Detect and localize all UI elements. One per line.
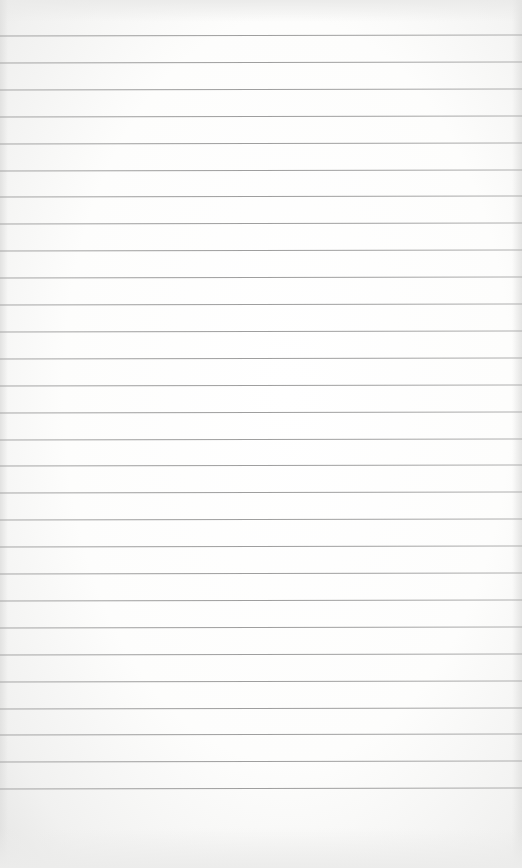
ruled-line	[0, 357, 522, 359]
ruled-line	[0, 707, 522, 709]
ruled-line	[0, 142, 522, 144]
ruled-line	[0, 276, 522, 278]
ruled-line	[0, 169, 522, 171]
ruled-line	[0, 249, 522, 251]
ruled-line	[0, 545, 522, 547]
ruled-line	[0, 491, 522, 493]
ruled-line	[0, 34, 522, 36]
ruled-line	[0, 222, 522, 224]
ruled-line	[0, 518, 522, 520]
ruled-line	[0, 303, 522, 305]
ruled-line	[0, 411, 522, 413]
ruled-line	[0, 680, 522, 682]
ruled-line	[0, 572, 522, 574]
ruled-line	[0, 599, 522, 601]
paper-shadow-top	[0, 0, 522, 22]
ruled-line	[0, 626, 522, 628]
ruled-line	[0, 330, 522, 332]
ruled-line	[0, 438, 522, 440]
ruled-line	[0, 653, 522, 655]
lined-paper-sheet	[0, 0, 522, 868]
ruled-line	[0, 88, 522, 90]
ruled-line	[0, 384, 522, 386]
ruled-line	[0, 115, 522, 117]
paper-shadow-left	[0, 0, 8, 868]
ruled-line	[0, 787, 522, 789]
ruled-line	[0, 464, 522, 466]
ruled-line	[0, 195, 522, 197]
ruled-line	[0, 733, 522, 735]
paper-shadow-bottom	[0, 828, 522, 868]
paper-shadow-right	[512, 0, 522, 868]
ruled-line	[0, 760, 522, 762]
ruled-line	[0, 61, 522, 63]
